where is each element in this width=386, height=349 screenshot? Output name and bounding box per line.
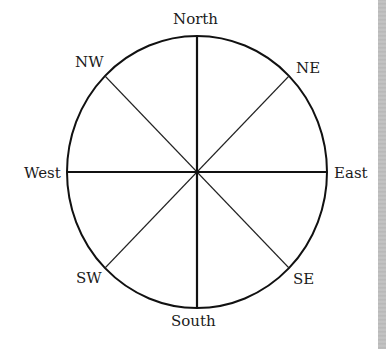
- center-point: [195, 170, 199, 174]
- label-sw: SW: [76, 271, 102, 286]
- label-se: SE: [293, 272, 314, 287]
- label-ne: NE: [296, 61, 320, 76]
- label-east: East: [334, 166, 368, 181]
- label-north: North: [173, 12, 218, 27]
- label-nw: NW: [75, 55, 104, 70]
- label-south: South: [171, 314, 216, 329]
- label-west: West: [24, 166, 61, 181]
